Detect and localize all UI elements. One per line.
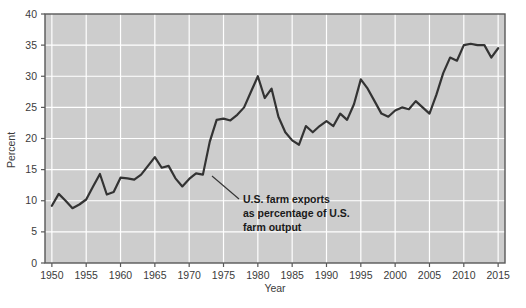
y-axis-tick-label: 30 bbox=[25, 70, 37, 82]
annotation-line-3: farm output bbox=[243, 221, 302, 233]
x-axis-tick-label: 1950 bbox=[40, 269, 64, 281]
y-axis-title: Percent bbox=[5, 132, 17, 168]
x-axis-tick-label: 2005 bbox=[418, 269, 442, 281]
x-axis-tick-label: 1960 bbox=[109, 269, 133, 281]
x-axis-tick-label: 2000 bbox=[383, 269, 407, 281]
x-axis-tick-label: 2015 bbox=[486, 269, 510, 281]
annotation-line-1: U.S. farm exports bbox=[243, 193, 330, 205]
y-axis-tick-label: 15 bbox=[25, 163, 37, 175]
y-axis-tick-label: 0 bbox=[31, 257, 37, 269]
x-axis-tick-label: 1970 bbox=[177, 269, 201, 281]
x-axis-tick-label: 1955 bbox=[75, 269, 99, 281]
y-axis-tick-label: 25 bbox=[25, 101, 37, 113]
x-axis-tick-label: 1985 bbox=[280, 269, 304, 281]
farm-exports-line-chart: 0510152025303540 19501955196019651970197… bbox=[0, 0, 526, 308]
chart-figure: 0510152025303540 19501955196019651970197… bbox=[0, 0, 526, 308]
y-axis-tick-label: 40 bbox=[25, 8, 37, 20]
y-axis-tick-label: 20 bbox=[25, 132, 37, 144]
x-axis-tick-label: 1965 bbox=[143, 269, 167, 281]
x-axis-tick-label: 1975 bbox=[212, 269, 236, 281]
y-axis-tick-label: 10 bbox=[25, 194, 37, 206]
x-axis-tick-label: 1990 bbox=[315, 269, 339, 281]
x-axis-title: Year bbox=[264, 282, 286, 294]
annotation-line-2: as percentage of U.S. bbox=[243, 207, 350, 219]
x-axis-tick-label: 2010 bbox=[452, 269, 476, 281]
y-axis-tick-label: 35 bbox=[25, 39, 37, 51]
x-axis-tick-label: 1995 bbox=[349, 269, 373, 281]
x-axis-tick-label: 1980 bbox=[246, 269, 270, 281]
y-axis-tick-label: 5 bbox=[31, 225, 37, 237]
